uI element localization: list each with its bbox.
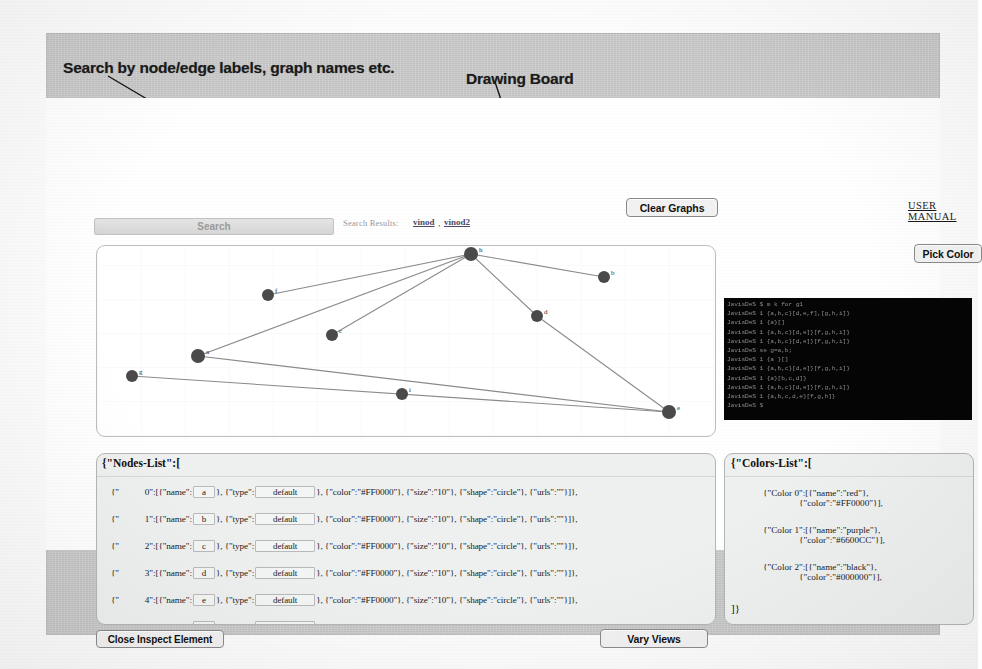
node-row-prefix: {" [111, 568, 119, 578]
nodes-list-panel[interactable]: {"Nodes-List":[ {"0":[{"name":a}, {"type… [96, 453, 716, 625]
shell-line: JavisDeS 1 {a,b,c,d,e}[f,g,h]} [727, 392, 969, 401]
graph-node[interactable]: e [662, 404, 680, 419]
drawing-board-canvas[interactable]: hbfdcagie [96, 245, 716, 437]
graph-node-label: d [544, 308, 548, 316]
node-row-mid2: }, {"type": [216, 487, 254, 497]
graph-node[interactable]: b [598, 269, 615, 283]
nodes-list-title: {"Nodes-List":[ [102, 457, 180, 469]
graph-node-circle[interactable] [326, 329, 338, 341]
graph-node-circle[interactable] [191, 349, 205, 363]
node-type-field[interactable]: default [255, 486, 315, 498]
shell-line: JavisDeS 1 {a,b,c}[d,e,f],[g,h,i]} [727, 309, 969, 318]
node-list-row[interactable]: {"4":[{"name":e}, {"type":default}, {"co… [97, 586, 715, 613]
search-result-link-vinod2[interactable]: vinod2 [444, 217, 470, 227]
node-name-field[interactable]: f [193, 621, 215, 626]
node-name-field[interactable]: b [193, 513, 215, 525]
node-type-field[interactable]: default [255, 621, 315, 626]
node-type-field[interactable]: default [255, 567, 315, 579]
color-entry-line2: {"color":"#6600CC"}], [799, 535, 885, 545]
node-list-row[interactable]: {"5":[{"name":f}, {"type":default}, {"co… [97, 613, 715, 625]
node-name-field[interactable]: d [193, 567, 215, 579]
node-row-mid: :[{"name": [153, 568, 192, 578]
shell-line: JavisDeS 1 {a}[b,c,d]} [727, 374, 969, 383]
graph-edge[interactable] [268, 254, 471, 295]
node-list-row[interactable]: {"1":[{"name":b}, {"type":default}, {"co… [97, 505, 715, 532]
node-list-row[interactable]: {"3":[{"name":d}, {"type":default}, {"co… [97, 559, 715, 586]
graph-node[interactable]: i [396, 386, 411, 400]
search-results-label: Search Results: [343, 218, 399, 228]
color-entry[interactable]: {"Color 0":[{"name":"red"},{"color":"#FF… [763, 488, 883, 508]
node-row-prefix: {" [111, 541, 119, 551]
shell-line: JavisDeS 1 {a,b,c}[d,e]}[f,g,h,i]} [727, 337, 969, 346]
shell-line: JavisDeS $ m k for g1 [727, 300, 969, 309]
node-row-index: 5" [119, 622, 153, 626]
graph-node-circle[interactable] [126, 370, 138, 382]
graph-node-label: c [339, 327, 342, 335]
graph-node-label: e [677, 404, 680, 412]
graph-node-label: i [409, 386, 411, 394]
application-window: Clear Graphs USER MANUAL Pick Color Sear… [46, 98, 940, 550]
search-result-link-vinod[interactable]: vinod [413, 217, 435, 227]
color-entry-line1: {"Color 2":[{"name":"black"}, [763, 562, 877, 572]
graph-node-label: h [479, 246, 483, 254]
graph-node-circle[interactable] [531, 310, 543, 322]
command-shell-terminal[interactable]: JavisDeS $ m k for g1JavisDeS 1 {a,b,c}[… [724, 298, 972, 420]
node-row-index: 3" [119, 568, 153, 578]
graph-node-circle[interactable] [662, 405, 676, 419]
graph-edge[interactable] [198, 356, 669, 412]
graph-node[interactable]: g [126, 368, 143, 382]
graph-node-circle[interactable] [396, 388, 408, 400]
user-manual-link[interactable]: USER MANUAL [908, 200, 956, 222]
graph-node-circle[interactable] [598, 271, 610, 283]
color-entry[interactable]: {"Color 2":[{"name":"black"},{"color":"#… [763, 562, 882, 582]
node-row-mid2: }, {"type": [216, 595, 254, 605]
color-entry-line2: {"color":"#FF0000"}], [799, 498, 883, 508]
shell-line: JavisDeS 1 {a,b,c}[d,e]}[f,g,h,i]} [727, 328, 969, 337]
search-result-separator: , [438, 218, 441, 228]
node-list-row[interactable]: {"0":[{"name":a}, {"type":default}, {"co… [97, 478, 715, 505]
graph-node-circle[interactable] [464, 247, 478, 261]
shell-line: JavisDeS 1 {a,b,c}[d,e]}[f,g,h,i]} [727, 364, 969, 373]
annotation-drawing-board-label: Drawing Board [466, 70, 574, 88]
shell-line: JavisDeS se g=a,b; [727, 346, 969, 355]
node-type-field[interactable]: default [255, 513, 315, 525]
node-row-mid2: }, {"type": [216, 568, 254, 578]
node-row-prefix: {" [111, 487, 119, 497]
close-inspect-element-button[interactable]: Close Inspect Element [96, 630, 224, 648]
graph-node-layer: hbfdcagie [126, 246, 680, 419]
shell-line: JavisDeS 1 {a }[] [727, 355, 969, 364]
node-row-mid: :[{"name": [153, 487, 192, 497]
node-row-tail: }, {"color":"#FF0000"}, {"size":"10"}, {… [316, 514, 577, 524]
node-list-row[interactable]: {"2":[{"name":c}, {"type":default}, {"co… [97, 532, 715, 559]
colors-list-panel[interactable]: {"Colors-List":[ {"Color 0":[{"name":"re… [724, 453, 974, 625]
node-row-tail: }, {"color":"#FF0000"}, {"size":"10"}, {… [316, 487, 577, 497]
graph-node-circle[interactable] [262, 289, 274, 301]
node-row-prefix: {" [111, 514, 119, 524]
search-input[interactable]: Search [94, 218, 334, 235]
pick-color-button[interactable]: Pick Color [914, 244, 982, 263]
node-type-field[interactable]: default [255, 594, 315, 606]
graph-edge[interactable] [198, 254, 471, 356]
graph-edge[interactable] [471, 254, 604, 277]
color-entry-line1: {"Color 1":[{"name":"purple"}, [763, 525, 880, 535]
annotation-search-label: Search by node/edge labels, graph names … [63, 59, 394, 77]
node-row-tail: }, {"color":"#FF0000"}, {"size":"10"}, {… [316, 595, 577, 605]
color-entry[interactable]: {"Color 1":[{"name":"purple"},{"color":"… [763, 525, 885, 545]
node-name-field[interactable]: c [193, 540, 215, 552]
node-row-mid2: }, {"type": [216, 541, 254, 551]
graph-node[interactable]: d [531, 308, 548, 322]
clear-graphs-button[interactable]: Clear Graphs [626, 198, 718, 217]
node-name-field[interactable]: e [193, 594, 215, 606]
graph-node[interactable]: h [464, 246, 483, 261]
node-type-field[interactable]: default [255, 540, 315, 552]
graph-edge[interactable] [537, 316, 669, 412]
graph-edge[interactable] [332, 254, 471, 335]
vary-views-button[interactable]: Vary Views [600, 629, 708, 648]
node-name-field[interactable]: a [193, 486, 215, 498]
graph-node[interactable]: a [191, 348, 210, 363]
graph-node[interactable]: c [326, 327, 342, 341]
node-row-tail: }, {"color":"#FF0000"}, {"size":"10"}, {… [316, 568, 577, 578]
node-row-mid2: }, {"type": [216, 622, 254, 626]
graph-node[interactable]: f [262, 287, 278, 301]
colors-list-closing: ]} [731, 602, 740, 614]
